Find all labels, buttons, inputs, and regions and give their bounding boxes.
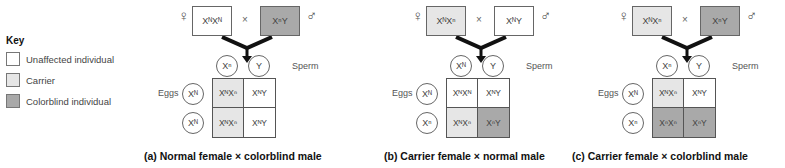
unaffected-swatch xyxy=(6,52,20,66)
colorblind-swatch xyxy=(6,94,20,108)
cross-symbol: × xyxy=(242,14,248,25)
panel-caption: (c) Carrier female × colorblind male xyxy=(572,150,748,162)
offspring-cell: XᴺY xyxy=(478,79,509,108)
key-label: Carrier xyxy=(26,75,55,86)
egg-gamete: Xᴺ xyxy=(182,112,204,134)
female-parent: XᴺXⁿ xyxy=(632,6,672,36)
male-symbol-icon: ♂ xyxy=(306,7,317,24)
key-label: Unaffected individual xyxy=(26,54,114,65)
panel-c: ♀ XᴺXⁿ × XⁿY ♂ Xⁿ Y Sperm Eggs Xᴺ Xⁿ XᴺX… xyxy=(612,0,785,168)
offspring-cell: XᴺY xyxy=(244,79,275,108)
offspring-cell: XᴺXⁿ xyxy=(447,108,478,137)
key-label: Colorblind individual xyxy=(26,96,111,107)
sperm-gamete: Y xyxy=(248,55,270,77)
eggs-label: Eggs xyxy=(158,88,179,98)
sperm-gamete: Xⁿ xyxy=(216,55,238,77)
carrier-swatch xyxy=(6,73,20,87)
punnett-square: XᴺXᴺXᴺYXᴺXⁿXⁿY xyxy=(446,78,510,138)
key-item-unaffected: Unaffected individual xyxy=(6,51,114,67)
cross-symbol: × xyxy=(476,14,482,25)
egg-gamete: Xᴺ xyxy=(182,83,204,105)
sperm-gamete: Xⁿ xyxy=(656,55,678,77)
sperm-label: Sperm xyxy=(526,61,553,71)
egg-gamete: Xᴺ xyxy=(416,83,438,105)
offspring-cell: XᴺY xyxy=(684,79,715,108)
offspring-cell: XᴺXᴺ xyxy=(447,79,478,108)
panel-a: ♀ XᴺXᴺ × XⁿY ♂ Xⁿ Y Sperm Eggs Xᴺ Xᴺ XᴺX… xyxy=(172,0,372,168)
female-parent: XᴺXⁿ xyxy=(426,6,466,36)
punnett-square: XᴺXⁿXᴺYXⁿXⁿXⁿY xyxy=(652,78,716,138)
male-parent: XⁿY xyxy=(700,6,740,36)
female-symbol-icon: ♀ xyxy=(178,7,189,24)
eggs-label: Eggs xyxy=(598,88,619,98)
punnett-square: XᴺXⁿXᴺYXᴺXⁿXᴺY xyxy=(212,78,276,138)
sperm-gamete: Y xyxy=(688,55,710,77)
female-parent: XᴺXᴺ xyxy=(192,6,232,36)
male-parent: XᴺY xyxy=(494,6,534,36)
offspring-cell: XᴺY xyxy=(244,108,275,137)
offspring-cell: XᴺXⁿ xyxy=(213,79,244,108)
female-symbol-icon: ♀ xyxy=(618,7,629,24)
male-symbol-icon: ♂ xyxy=(540,7,551,24)
panel-caption: (b) Carrier female × normal male xyxy=(384,150,545,162)
offspring-cell: XⁿXⁿ xyxy=(653,108,684,137)
offspring-cell: XᴺXⁿ xyxy=(653,79,684,108)
sperm-label: Sperm xyxy=(732,61,759,71)
offspring-cell: XⁿY xyxy=(684,108,715,137)
cross-symbol: × xyxy=(682,14,688,25)
key-item-colorblind: Colorblind individual xyxy=(6,93,111,109)
key-title: Key xyxy=(6,35,24,46)
key-item-carrier: Carrier xyxy=(6,72,55,88)
male-symbol-icon: ♂ xyxy=(746,7,757,24)
offspring-cell: XᴺXⁿ xyxy=(213,108,244,137)
panel-caption: (a) Normal female × colorblind male xyxy=(144,150,322,162)
male-parent: XⁿY xyxy=(260,6,300,36)
egg-gamete: Xᴺ xyxy=(622,83,644,105)
eggs-label: Eggs xyxy=(392,88,413,98)
female-symbol-icon: ♀ xyxy=(412,7,423,24)
egg-gamete: Xⁿ xyxy=(622,112,644,134)
sperm-gamete: Xᴺ xyxy=(450,55,472,77)
sperm-label: Sperm xyxy=(292,61,319,71)
offspring-cell: XⁿY xyxy=(478,108,509,137)
egg-gamete: Xⁿ xyxy=(416,112,438,134)
sperm-gamete: Y xyxy=(482,55,504,77)
panel-b: ♀ XᴺXⁿ × XᴺY ♂ Xᴺ Y Sperm Eggs Xᴺ Xⁿ XᴺX… xyxy=(406,0,606,168)
